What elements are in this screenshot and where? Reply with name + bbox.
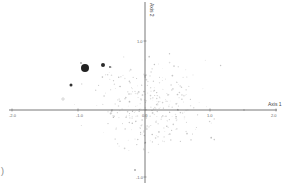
stray-parenthesis: )	[1, 166, 4, 176]
faint-data-point	[184, 116, 186, 118]
faint-data-point	[197, 114, 198, 115]
faint-data-point	[164, 131, 165, 132]
faint-data-point	[95, 90, 96, 91]
faint-data-point	[157, 136, 158, 137]
faint-data-point	[143, 148, 144, 149]
faint-data-point	[153, 91, 154, 92]
faint-data-point	[162, 80, 163, 81]
faint-data-point	[196, 127, 197, 128]
faint-data-point	[179, 92, 181, 94]
faint-data-point	[74, 104, 75, 105]
faint-data-point	[131, 117, 132, 118]
faint-data-point	[149, 75, 151, 77]
faint-data-point	[147, 85, 148, 86]
faint-data-point	[170, 84, 172, 86]
faint-data-point	[211, 122, 212, 123]
faint-data-point	[81, 83, 83, 85]
faint-data-point	[127, 111, 129, 113]
faint-data-point	[115, 88, 116, 89]
faint-data-point	[178, 84, 179, 85]
x-tick-label: 1.0	[207, 113, 213, 118]
faint-data-point	[184, 112, 185, 113]
faint-data-point	[133, 77, 134, 78]
faint-data-point	[107, 111, 109, 113]
faint-data-point	[154, 87, 155, 88]
faint-data-point	[134, 138, 135, 139]
faint-point-cloud	[74, 53, 221, 153]
faint-data-point	[114, 103, 115, 104]
faint-data-point	[114, 138, 116, 140]
faint-data-point	[148, 126, 149, 127]
faint-data-point	[175, 116, 177, 118]
faint-data-point	[156, 135, 157, 136]
faint-data-point	[171, 89, 172, 90]
faint-data-point	[137, 105, 138, 106]
faint-data-point	[135, 93, 136, 94]
faint-data-point	[103, 132, 104, 133]
faint-data-point	[146, 100, 147, 101]
scatter-plot: -2.0 -1.0 0.0 1.0 2.0 1.0 -1.0 Axis 1 Ax…	[0, 0, 283, 189]
faint-data-point	[206, 106, 207, 107]
faint-data-point	[140, 133, 141, 134]
faint-data-point	[152, 141, 153, 142]
faint-data-point	[147, 92, 148, 93]
faint-data-point	[190, 99, 191, 100]
faint-data-point	[181, 94, 183, 96]
faint-data-point	[186, 133, 188, 135]
faint-data-point	[81, 125, 82, 126]
faint-data-point	[167, 121, 168, 122]
faint-data-point	[132, 111, 133, 112]
faint-data-point	[182, 112, 184, 114]
faint-data-point	[110, 113, 112, 115]
faint-data-point	[131, 129, 132, 130]
faint-data-point	[178, 66, 179, 67]
faint-data-point	[137, 93, 139, 95]
faint-data-point	[164, 116, 165, 117]
faint-data-point	[166, 125, 168, 127]
faint-data-point	[162, 141, 163, 142]
faint-data-point	[176, 81, 177, 82]
faint-data-point	[185, 94, 186, 95]
faint-data-point	[169, 104, 170, 105]
faint-data-point	[137, 139, 138, 140]
faint-data-point	[178, 97, 179, 98]
faint-data-point	[136, 78, 137, 79]
faint-data-point	[146, 128, 148, 130]
x-tick-label: 2.0	[271, 113, 277, 118]
faint-data-point	[129, 82, 131, 84]
faint-data-point	[166, 93, 167, 94]
faint-data-point	[115, 129, 116, 130]
faint-data-point	[118, 98, 120, 100]
faint-data-point	[147, 81, 149, 83]
x-tick-label: -2.0	[9, 113, 17, 118]
faint-data-point	[156, 101, 157, 102]
faint-data-point	[173, 65, 175, 67]
faint-data-point	[164, 141, 165, 142]
faint-data-point	[143, 149, 144, 150]
faint-data-point	[146, 125, 147, 126]
faint-data-point	[131, 87, 132, 88]
faint-data-point	[167, 101, 168, 102]
faint-data-point	[125, 116, 127, 118]
faint-data-point	[184, 118, 185, 119]
data-point-tiny	[134, 169, 135, 170]
faint-data-point	[149, 116, 151, 118]
faint-data-point	[175, 114, 176, 115]
faint-data-point	[114, 83, 116, 85]
x-axis-title: Axis 1	[268, 101, 282, 107]
faint-data-point	[161, 116, 162, 117]
faint-data-point	[151, 68, 152, 69]
faint-data-point	[205, 60, 206, 61]
faint-data-point	[98, 85, 99, 86]
faint-data-point	[141, 99, 142, 100]
faint-data-point	[103, 95, 105, 97]
faint-data-point	[180, 85, 181, 86]
faint-data-point	[128, 106, 129, 107]
faint-data-point	[185, 69, 186, 70]
faint-data-point	[141, 85, 142, 86]
faint-data-point	[163, 107, 164, 108]
faint-data-point	[154, 107, 156, 109]
data-point-tiny	[80, 62, 81, 63]
faint-data-point	[122, 75, 123, 76]
faint-data-point	[102, 76, 104, 78]
